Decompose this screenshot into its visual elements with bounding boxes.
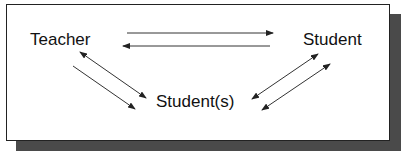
arrow-student-students-double	[252, 54, 318, 99]
arrows	[0, 0, 404, 159]
arrow-teacher-to-students	[73, 66, 135, 109]
arrow-teacher-students-double	[80, 52, 146, 98]
arrow-students-student-double	[262, 64, 330, 110]
